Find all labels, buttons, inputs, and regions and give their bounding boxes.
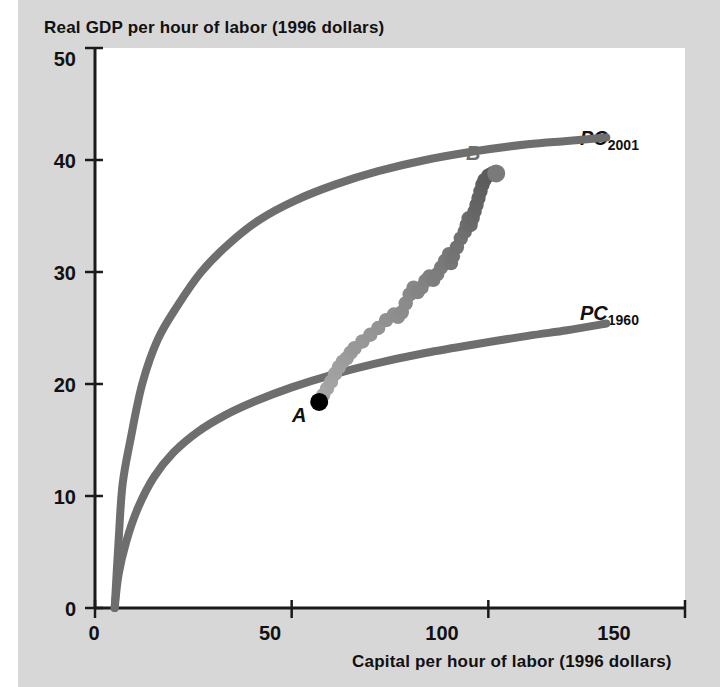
chart-figure: Real GDP per hour of labor (1996 dollars…	[0, 0, 720, 687]
curve-PC2001	[115, 138, 607, 608]
production-function-curves	[115, 138, 607, 608]
capital-path-scatter	[312, 166, 499, 409]
axes-group	[85, 48, 685, 618]
curve-PC1960	[115, 324, 607, 608]
point-b-marker	[487, 164, 505, 182]
point-a-marker	[310, 393, 328, 411]
chart-svg	[0, 0, 720, 687]
